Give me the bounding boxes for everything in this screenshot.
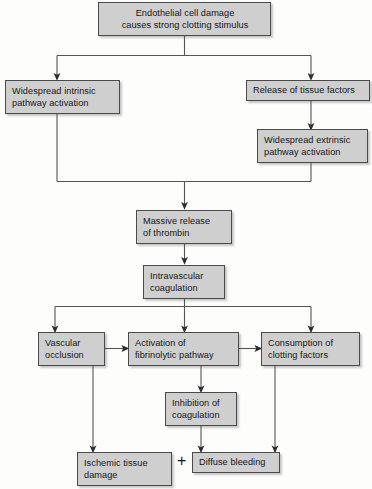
node-line-1: Intravascular: [150, 270, 219, 283]
node-diffuse-bleeding: Diffuse bleeding: [192, 452, 280, 473]
node-ischemic-tissue-damage: Ischemic tissue damage: [77, 452, 172, 486]
node-consumption-of-clotting-factors: Consumption of clotting factors: [261, 332, 360, 366]
plus-operator: +: [177, 453, 186, 469]
node-line-2: pathway activation: [12, 97, 114, 110]
node-line-1: Widespread extrinsic: [264, 134, 362, 147]
node-line-1: Widespread intrinsic: [12, 85, 114, 98]
node-line-1: Activation of: [135, 337, 233, 350]
node-line-1: Endothelial cell damage: [136, 7, 235, 20]
node-vascular-occlusion: Vascular occlusion: [38, 332, 105, 366]
node-line-1: Inhibition of: [172, 397, 231, 410]
node-inhibition-of-coagulation: Inhibition of coagulation: [165, 392, 237, 426]
node-line-1: Consumption of: [268, 337, 354, 350]
node-widespread-extrinsic-pathway-activation: Widespread extrinsic pathway activation: [257, 129, 368, 163]
node-line-1: Diffuse bleeding: [199, 456, 274, 469]
node-line-1: Release of tissue factors: [253, 84, 364, 97]
node-line-2: causes strong clotting stimulus: [122, 19, 249, 32]
node-activation-of-fibrinolytic-pathway: Activation of fibrinolytic pathway: [128, 332, 239, 366]
node-endothelial-cell-damage: Endothelial cell damage causes strong cl…: [98, 2, 271, 36]
node-intravascular-coagulation: Intravascular coagulation: [143, 265, 225, 299]
node-line-1: Vascular: [45, 337, 99, 350]
flowchart-canvas: Endothelial cell damage causes strong cl…: [0, 0, 372, 489]
node-line-1: Massive release: [143, 215, 226, 228]
node-massive-release-of-thrombin: Massive release of thrombin: [136, 210, 232, 244]
node-line-2: coagulation: [172, 409, 231, 422]
node-line-2: occlusion: [45, 349, 99, 362]
node-line-2: pathway activation: [264, 146, 362, 159]
node-line-2: coagulation: [150, 282, 219, 295]
node-line-2: damage: [84, 469, 166, 482]
node-line-1: Ischemic tissue: [84, 457, 166, 470]
node-widespread-intrinsic-pathway-activation: Widespread intrinsic pathway activation: [5, 80, 120, 114]
node-line-2: fibrinolytic pathway: [135, 349, 233, 362]
node-line-2: clotting factors: [268, 349, 354, 362]
node-line-2: of thrombin: [143, 227, 226, 240]
node-release-of-tissue-factors: Release of tissue factors: [246, 80, 370, 101]
